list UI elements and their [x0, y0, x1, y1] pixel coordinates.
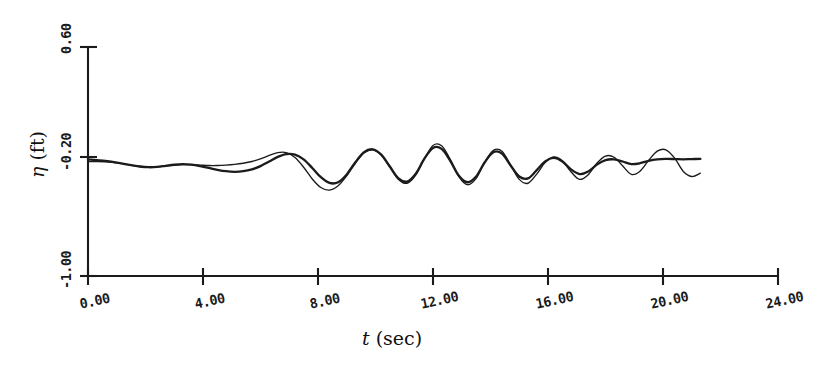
series-line-computed — [88, 144, 700, 190]
plot-canvas — [0, 0, 833, 370]
chart-figure: η (ft) t (sec) 0.60 -0.20 -1.00 0.00 4.0… — [0, 0, 833, 370]
series-line-measured — [88, 147, 700, 184]
